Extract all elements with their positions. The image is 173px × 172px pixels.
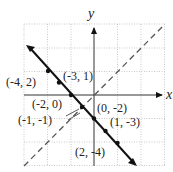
point-label: (0, -2) xyxy=(97,101,127,115)
point-label: (-4, 2) xyxy=(6,75,36,89)
point-label: (-2, 0) xyxy=(32,97,62,111)
x-axis-label: x xyxy=(165,87,173,102)
coordinate-plane: x y (-4, 2) (-3, 1) (-2, 0) (-1, -1) (0,… xyxy=(0,0,173,172)
point-label: (-3, 1) xyxy=(63,69,93,83)
y-axis-label: y xyxy=(86,6,95,21)
point-label: (-1, -1) xyxy=(18,113,52,127)
point-label: (2, -4) xyxy=(75,145,105,159)
point-label: (1, -3) xyxy=(110,115,140,129)
